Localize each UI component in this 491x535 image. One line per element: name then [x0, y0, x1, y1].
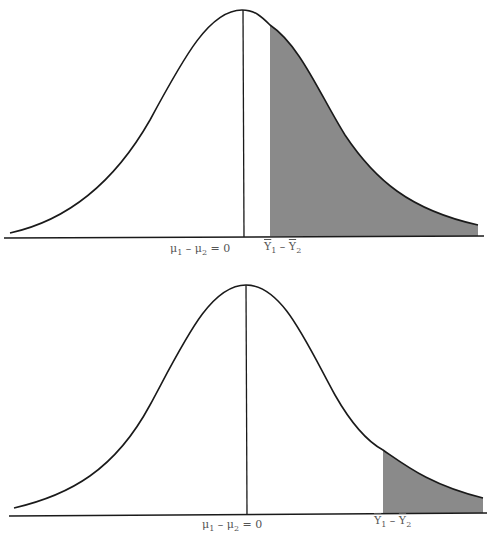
minus-sign: – [182, 242, 195, 255]
mu2-symbol: μ [195, 242, 202, 255]
sub-2: 2 [296, 246, 301, 255]
figure-canvas [0, 0, 491, 535]
bottom-mean-line [246, 285, 247, 514]
minus-sign: – [214, 518, 227, 531]
top-x-axis [4, 236, 484, 238]
top-stat-label: Y1 – Y2 [264, 240, 301, 255]
top-mean-label: μ1 – μ2 = 0 [170, 242, 230, 257]
sub-2: 2 [406, 520, 411, 529]
bottom-x-axis [9, 513, 487, 516]
bottom-panel [9, 285, 487, 516]
bottom-mean-label: μ1 – μ2 = 0 [202, 518, 262, 533]
top-shaded-region [270, 25, 478, 236]
top-mean-line [243, 10, 244, 237]
minus-sign: – [276, 240, 289, 253]
equals-zero: = 0 [207, 242, 230, 255]
top-panel [4, 10, 484, 238]
bottom-stat-label: Y1 – Y2 [374, 514, 411, 529]
equals-zero: = 0 [239, 518, 262, 531]
minus-sign: – [386, 514, 399, 527]
mu2-symbol: μ [227, 518, 234, 531]
